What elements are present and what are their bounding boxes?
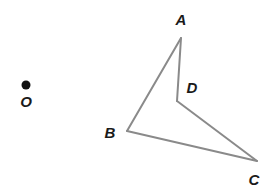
geometry-figure-svg <box>0 0 268 192</box>
label-vertex-d: D <box>187 80 198 95</box>
label-vertex-b: B <box>105 125 116 140</box>
geometry-figure-canvas: O A B C D <box>0 0 268 192</box>
label-point-o: O <box>20 94 32 109</box>
point-o-dot <box>22 81 31 90</box>
label-vertex-a: A <box>176 12 187 27</box>
label-vertex-c: C <box>249 172 260 187</box>
edge-AB <box>127 38 181 131</box>
edge-DA <box>177 38 181 101</box>
